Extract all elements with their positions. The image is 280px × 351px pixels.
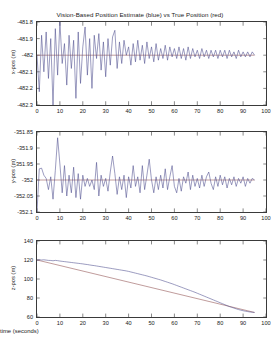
y-axis-label: z-pos (m) bbox=[10, 248, 16, 308]
xtick-label: 80 bbox=[217, 215, 223, 221]
xtick-label: 0 bbox=[35, 320, 38, 326]
ytick-label: -481.8 bbox=[0, 19, 33, 25]
xtick-label: 10 bbox=[57, 320, 63, 326]
xtick-label: 80 bbox=[217, 108, 223, 114]
ytick-label: 60 bbox=[0, 314, 33, 320]
xtick-label: 10 bbox=[57, 108, 63, 114]
xtick-label: 60 bbox=[171, 108, 177, 114]
matlab-figure: Vision-Based Position Estimate (blue) vs… bbox=[0, 0, 280, 351]
xtick-label: 20 bbox=[80, 108, 86, 114]
ytick-label: -481.9 bbox=[0, 36, 33, 42]
ytick-label: 100 bbox=[0, 276, 33, 282]
ytick-label: -352.05 bbox=[0, 193, 33, 199]
ytick-label: 120 bbox=[0, 257, 33, 263]
ytick-label: -352 bbox=[0, 177, 33, 183]
xtick-label: 30 bbox=[103, 215, 109, 221]
xtick-label: 70 bbox=[194, 108, 200, 114]
xtick-label: 0 bbox=[35, 108, 38, 114]
xtick-label: 90 bbox=[240, 320, 246, 326]
xtick-label: 80 bbox=[217, 320, 223, 326]
xtick-label: 20 bbox=[80, 320, 86, 326]
xtick-label: 70 bbox=[194, 215, 200, 221]
xtick-label: 0 bbox=[35, 215, 38, 221]
xtick-label: 100 bbox=[261, 108, 270, 114]
ytick-label: -351.85 bbox=[0, 129, 33, 135]
plot-area-y-position bbox=[36, 131, 267, 213]
xtick-label: 50 bbox=[148, 320, 154, 326]
ytick-label: 140 bbox=[0, 238, 33, 244]
xtick-label: 70 bbox=[194, 320, 200, 326]
xtick-label: 60 bbox=[171, 320, 177, 326]
xtick-label: 40 bbox=[125, 108, 131, 114]
xtick-label: 20 bbox=[80, 215, 86, 221]
xtick-label: 50 bbox=[148, 215, 154, 221]
xtick-label: 10 bbox=[57, 215, 63, 221]
xtick-label: 50 bbox=[148, 108, 154, 114]
ytick-label: -351.9 bbox=[0, 145, 33, 151]
ytick-label: -482 bbox=[0, 52, 33, 58]
xtick-label: 60 bbox=[171, 215, 177, 221]
plot-area-x-position bbox=[36, 21, 267, 106]
ytick-label: -482.3 bbox=[0, 102, 33, 108]
figure-title: Vision-Based Position Estimate (blue) vs… bbox=[0, 11, 280, 18]
y-axis-label: x-pos (m) bbox=[10, 32, 16, 92]
xtick-label: 90 bbox=[240, 108, 246, 114]
xtick-label: 30 bbox=[103, 320, 109, 326]
ytick-label: -352.1 bbox=[0, 209, 33, 215]
plot-area-z-position bbox=[36, 240, 267, 318]
y-axis-label: y-pos (m) bbox=[10, 141, 16, 201]
xtick-label: 40 bbox=[125, 320, 131, 326]
xtick-label: 30 bbox=[103, 108, 109, 114]
ytick-label: -482.1 bbox=[0, 69, 33, 75]
xtick-label: 100 bbox=[261, 215, 270, 221]
ytick-label: -351.95 bbox=[0, 161, 33, 167]
xtick-label: 90 bbox=[240, 215, 246, 221]
ytick-label: 80 bbox=[0, 295, 33, 301]
ytick-label: -482.2 bbox=[0, 85, 33, 91]
xtick-label: 100 bbox=[261, 320, 270, 326]
xtick-label: 40 bbox=[125, 215, 131, 221]
